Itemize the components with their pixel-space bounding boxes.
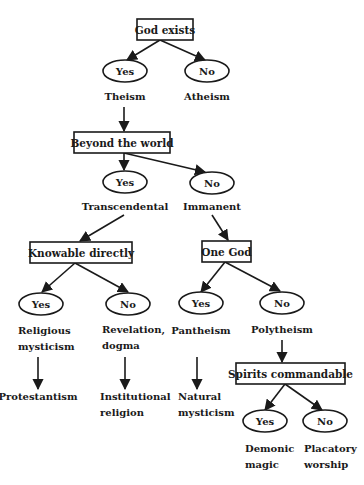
outcome-demonic-magic-line2: magic	[245, 459, 279, 470]
outcome-immanent: Immanent	[183, 201, 241, 212]
answer-label: No	[120, 299, 136, 310]
answer-label: No	[199, 66, 215, 77]
outcome-religious-mysticism-line1: Religious	[18, 325, 71, 336]
question-knowable-directly: Knowable directly	[28, 242, 135, 263]
outcome-pantheism: Pantheism	[171, 325, 231, 336]
edge-onegod-yes	[201, 262, 225, 292]
answer-god-yes: Yes	[103, 60, 147, 82]
outcome-natural-mysticism-line2: mysticism	[178, 407, 235, 418]
outcome-protestantism: Protestantism	[0, 391, 78, 402]
question-spirits-commandable: Spirits commandable	[228, 363, 353, 384]
answer-label: Yes	[255, 416, 275, 427]
question-god-exists: God exists	[135, 19, 196, 40]
answer-label: No	[204, 178, 220, 189]
outcome-placatory-worship-line1: Placatory	[304, 443, 358, 454]
outcome-polytheism: Polytheism	[251, 324, 313, 335]
answer-onegod-no: No	[260, 292, 304, 314]
edges	[38, 40, 322, 410]
outcome-natural-mysticism-line1: Natural	[178, 391, 221, 402]
answer-onegod-yes: Yes	[179, 292, 223, 314]
outcome-institutional-line2: religion	[100, 407, 145, 418]
edge-god-yes	[127, 40, 160, 60]
answer-label: No	[274, 298, 290, 309]
question-label: Beyond the world	[70, 137, 174, 149]
edge-spirits-yes	[265, 384, 285, 410]
question-label: One God	[201, 246, 252, 258]
answer-knowable-yes: Yes	[19, 293, 63, 315]
edge-god-no	[160, 40, 205, 60]
question-beyond-the-world: Beyond the world	[70, 132, 174, 153]
outcome-institutional-line1: Institutional	[100, 391, 171, 402]
answer-beyond-no: No	[190, 172, 234, 194]
outcome-transcendental: Transcendental	[82, 201, 169, 212]
answer-label: Yes	[31, 299, 51, 310]
question-one-god: One God	[201, 241, 252, 262]
answer-label: Yes	[115, 66, 135, 77]
answer-knowable-no: No	[106, 293, 150, 315]
outcome-revelation-line1: Revelation,	[102, 324, 165, 336]
outcome-atheism: Atheism	[183, 91, 230, 102]
edge-knowable-no	[75, 263, 128, 292]
outcome-demonic-magic-line1: Demonic	[245, 443, 294, 454]
religion-decision-tree: God exists Beyond the world Knowable dir…	[0, 0, 364, 485]
edge-transcendental-knowable	[80, 215, 124, 241]
outcome-revelation-line2: dogma	[102, 340, 140, 351]
answer-beyond-yes: Yes	[103, 171, 147, 193]
question-label: God exists	[135, 24, 196, 36]
answer-spirits-yes: Yes	[243, 410, 287, 432]
answer-label: Yes	[191, 298, 211, 309]
outcome-placatory-worship-line2: worship	[303, 459, 348, 470]
answer-label: No	[317, 416, 333, 427]
edge-onegod-no	[225, 262, 280, 291]
outcome-religious-mysticism-line2: mysticism	[18, 341, 75, 352]
answer-god-no: No	[185, 60, 229, 82]
answer-label: Yes	[115, 177, 135, 188]
question-label: Knowable directly	[28, 247, 135, 259]
outcome-theism: Theism	[104, 91, 146, 102]
edge-knowable-yes	[42, 263, 75, 292]
edge-immanent-onegod	[212, 215, 228, 240]
question-label: Spirits commandable	[228, 368, 353, 380]
edge-spirits-no	[285, 384, 322, 410]
edge-beyond-no	[124, 153, 205, 172]
answer-spirits-no: No	[303, 410, 347, 432]
